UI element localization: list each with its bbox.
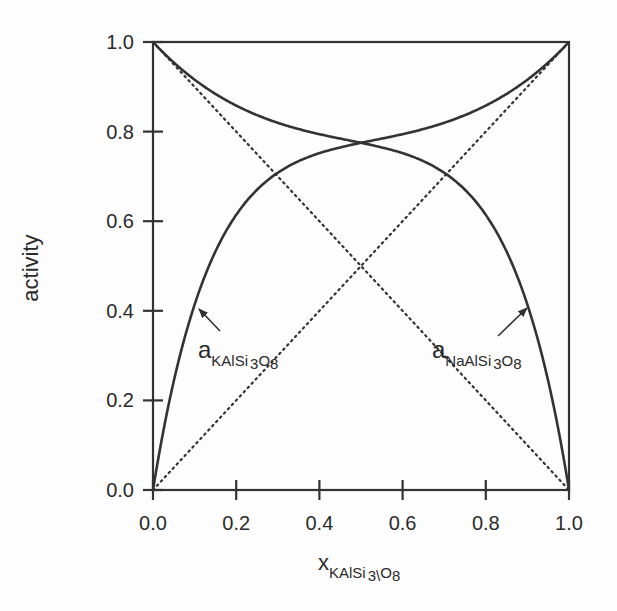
y-tick-label: 0.4 (106, 300, 134, 322)
annotation-a-naalsi3o8: aNaAlSi3O8 (432, 336, 522, 372)
x-tick-label: 1.0 (555, 512, 583, 534)
arrow-icon-naalsi3o8 (498, 308, 527, 336)
arrow-icon-kalsi3o8 (199, 309, 220, 331)
x-axis-label: xKAlSi3\O8 (318, 550, 400, 584)
y-tick-label: 0.2 (106, 389, 134, 411)
activity-composition-chart: 0.00.20.40.60.81.0 0.00.20.40.60.81.0 aK… (0, 0, 617, 611)
x-tick-label: 0.2 (222, 512, 250, 534)
x-tick-label: 0.6 (389, 512, 417, 534)
y-tick-label: 0.6 (106, 210, 134, 232)
y-tick-label: 0.8 (106, 121, 134, 143)
x-tick-label: 0.8 (472, 512, 500, 534)
annotation-a-kalsi3o8: aKAlSi3O8 (198, 336, 278, 372)
y-axis-ticks: 0.00.20.40.60.81.0 (106, 31, 163, 501)
x-tick-label: 0.4 (305, 512, 333, 534)
x-tick-label: 0.0 (139, 512, 167, 534)
y-tick-label: 0.0 (106, 479, 134, 501)
y-axis-label: activity (18, 234, 43, 301)
x-axis-ticks: 0.00.20.40.60.81.0 (139, 480, 583, 534)
y-tick-label: 1.0 (106, 31, 134, 53)
